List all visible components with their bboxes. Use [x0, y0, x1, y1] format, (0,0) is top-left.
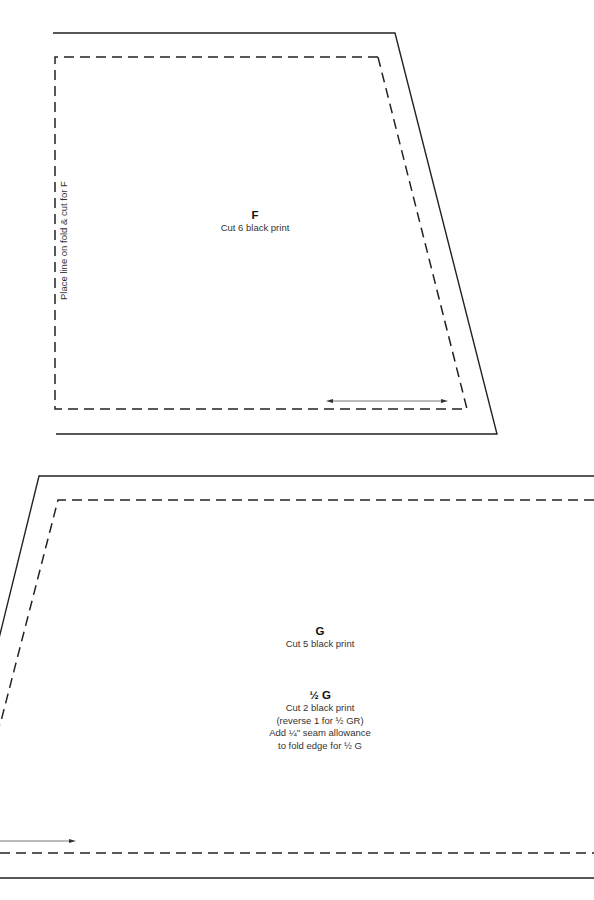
piece-g-letter: G: [255, 624, 385, 638]
piece-half-g-line-3: Add ¼" seam allowance: [240, 727, 400, 740]
piece-g-instruction: Cut 5 black print: [255, 638, 385, 651]
piece-f-letter: F: [190, 208, 320, 222]
piece-f-grainline-arrow: [326, 399, 448, 403]
piece-half-g-line-2: (reverse 1 for ½ GR): [240, 715, 400, 728]
piece-f-label: F Cut 6 black print: [190, 208, 320, 235]
fold-instruction: Place line on fold & cut for F: [58, 181, 69, 300]
pattern-drawing: [0, 0, 594, 900]
piece-half-g-line-4: to fold edge for ½ G: [240, 740, 400, 753]
piece-g-grainline-arrow: [0, 839, 76, 843]
piece-half-g-label: ½ G Cut 2 black print (reverse 1 for ½ G…: [240, 688, 400, 752]
piece-g-label: G Cut 5 black print: [255, 624, 385, 651]
piece-f-instruction: Cut 6 black print: [190, 222, 320, 235]
piece-g-cut-line: [0, 476, 594, 878]
piece-half-g-line-1: Cut 2 black print: [240, 702, 400, 715]
piece-half-g-title: ½ G: [240, 688, 400, 702]
